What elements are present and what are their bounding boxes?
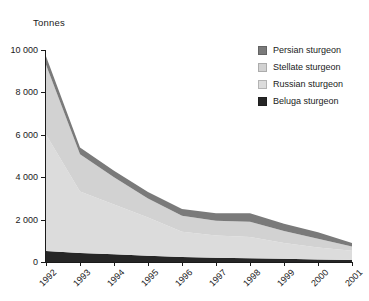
y-tick-label: 8 000 xyxy=(15,88,38,97)
x-tick xyxy=(352,262,353,266)
legend-item-label: Persian sturgeon xyxy=(273,46,341,55)
y-tick-label: 4 000 xyxy=(15,173,38,182)
x-tick xyxy=(182,262,183,266)
x-tick xyxy=(148,262,149,266)
x-tick xyxy=(284,262,285,266)
legend-item[interactable]: Beluga sturgeon xyxy=(258,93,343,110)
legend-item-label: Beluga sturgeon xyxy=(273,97,339,106)
x-tick xyxy=(250,262,251,266)
x-tick xyxy=(114,262,115,266)
y-tick-label: 0 xyxy=(33,258,38,267)
x-tick xyxy=(318,262,319,266)
legend-swatch-icon xyxy=(258,97,267,106)
legend-swatch-icon xyxy=(258,46,267,55)
legend-item-label: Russian sturgeon xyxy=(273,80,343,89)
legend-item-label: Stellate sturgeon xyxy=(273,63,341,72)
x-tick-label: 1992 xyxy=(10,268,59,301)
chart-legend: Persian sturgeonStellate sturgeonRussian… xyxy=(258,42,343,110)
legend-item[interactable]: Persian sturgeon xyxy=(258,42,343,59)
legend-swatch-icon xyxy=(258,80,267,89)
y-tick-label: 6 000 xyxy=(15,131,38,140)
legend-item[interactable]: Russian sturgeon xyxy=(258,76,343,93)
y-axis-title: Tonnes xyxy=(33,17,65,28)
y-tick-label: 2 000 xyxy=(15,216,38,225)
y-tick-label: 10 000 xyxy=(10,46,38,55)
x-tick xyxy=(216,262,217,266)
x-axis-line xyxy=(45,262,352,263)
x-tick xyxy=(80,262,81,266)
stacked-area-chart: Tonnes 02 0004 0006 0008 00010 000 19921… xyxy=(0,0,369,301)
x-tick xyxy=(46,262,47,266)
legend-swatch-icon xyxy=(258,63,267,72)
legend-item[interactable]: Stellate sturgeon xyxy=(258,59,343,76)
